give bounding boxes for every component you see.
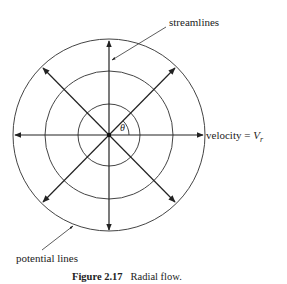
angle-label: θ [120, 122, 125, 133]
figure-caption: Figure 2.17Radial flow. [72, 271, 182, 282]
caption-number: Figure 2.17 [72, 271, 123, 282]
streamlines-leader [112, 27, 166, 60]
source-point [107, 133, 111, 137]
streamline-northwest [43, 68, 109, 135]
caption-text: Radial flow. [131, 271, 182, 282]
velocity-label: velocity = Vr [206, 129, 264, 144]
streamline-southwest [43, 135, 109, 202]
streamline-southeast [109, 135, 175, 202]
radial-flow-diagram: θ streamlines velocity = Vr potential li… [0, 0, 287, 284]
streamlines-label: streamlines [169, 16, 219, 28]
potential-lines-label: potential lines [16, 252, 78, 264]
velocity-prefix: velocity = [206, 129, 253, 141]
potential-lines-leader [42, 226, 73, 250]
velocity-subscript: r [260, 135, 264, 144]
streamline-northeast [109, 68, 175, 135]
